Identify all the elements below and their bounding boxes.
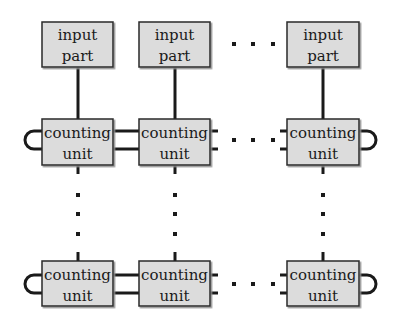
counting-unit-bottom-1-line2: unit [62,287,92,305]
right-loop-top [359,131,376,149]
input-part-3-line1: input [303,26,343,44]
input-part-1-line2: part [62,47,94,65]
input-part-2: input part [139,22,210,67]
left-loop-top [25,131,42,149]
left-loop-bottom [25,275,42,293]
counting-unit-bottom-3-line2: unit [308,287,338,305]
counting-unit-bottom-2-line2: unit [159,287,189,305]
input-part-1-line1: input [58,26,98,44]
counting-unit-bottom-3-line1: counting [290,266,357,284]
counting-unit-bottom-1-line1: counting [44,266,111,284]
counting-unit-top-3: counting unit [287,119,359,165]
input-part-3: input part [287,22,359,67]
horizontal-ellipsis-inputs [232,42,275,46]
input-part-1: input part [42,22,113,67]
counting-unit-bottom-1: counting unit [42,261,113,306]
counting-unit-top-2-line1: counting [141,124,208,142]
vertical-ellipsis-col-2 [173,193,177,236]
counting-unit-top-1-line1: counting [44,124,111,142]
counting-array-diagram: input part input part input part countin… [0,0,395,325]
input-part-2-line2: part [159,47,191,65]
input-to-unit-connectors [78,67,323,119]
right-loop-bottom [359,275,376,293]
counting-unit-top-1: counting unit [42,119,113,165]
counting-unit-bottom-3: counting unit [287,261,359,306]
horizontal-ellipsis-top-units [232,138,275,142]
counting-unit-top-2-line2: unit [159,145,189,163]
input-part-3-line2: part [307,47,339,65]
counting-unit-top-1-line2: unit [62,145,92,163]
counting-unit-top-2: counting unit [139,119,210,165]
horizontal-ellipsis-bottom-units [232,282,275,286]
counting-unit-top-3-line2: unit [308,145,338,163]
counting-unit-bottom-2-line1: counting [141,266,208,284]
vertical-ellipsis-col-1 [76,193,80,236]
counting-unit-top-3-line1: counting [290,124,357,142]
vertical-ellipsis-col-3 [321,193,325,236]
vertical-stubs [78,165,323,261]
input-part-2-line1: input [155,26,195,44]
counting-unit-bottom-2: counting unit [139,261,210,306]
